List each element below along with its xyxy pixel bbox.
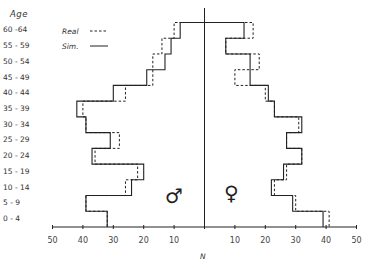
x-tick-label: 40 — [321, 236, 331, 245]
x-axis-title: N — [200, 252, 206, 261]
male-real-series — [83, 23, 205, 228]
x-tick-label: 10 — [230, 236, 240, 245]
x-tick-label: 30 — [291, 236, 301, 245]
x-tick-label: 30 — [108, 236, 118, 245]
legend-sim-label: Sim. — [62, 42, 79, 51]
x-tick-label: 20 — [260, 236, 270, 245]
x-tick-label: 10 — [169, 236, 179, 245]
female-symbol-icon: ♀ — [224, 183, 239, 203]
age-label: 0 - 4 — [3, 214, 20, 223]
male-sim-series — [77, 23, 205, 228]
age-label: 45 - 49 — [3, 73, 30, 82]
x-tick-label: 50 — [351, 236, 361, 245]
age-label: 20 - 24 — [3, 151, 30, 160]
legend-real-label: Real — [62, 27, 79, 36]
age-label: 50 - 54 — [3, 57, 30, 66]
legend-real: Real — [62, 27, 79, 36]
age-label: 40 - 44 — [3, 88, 30, 97]
age-label: 55 - 59 — [3, 41, 30, 50]
age-label: 35 - 39 — [3, 104, 30, 113]
age-label: 25 - 29 — [3, 135, 30, 144]
female-sim-series — [205, 23, 324, 228]
age-label: 5 - 9 — [3, 198, 20, 207]
legend-sim: Sim. — [62, 42, 79, 51]
age-label: 60 -64 — [3, 25, 27, 34]
x-tick-label: 40 — [78, 236, 88, 245]
x-tick-label: 50 — [47, 236, 57, 245]
population-pyramid-plot — [0, 0, 373, 268]
age-label: 15 - 19 — [3, 167, 30, 176]
age-label: 10 - 14 — [3, 183, 30, 192]
x-tick-label: 20 — [139, 236, 149, 245]
male-symbol-icon: ♂ — [165, 186, 183, 206]
age-label: 30 - 34 — [3, 120, 30, 129]
y-axis-title: Age — [10, 9, 28, 19]
